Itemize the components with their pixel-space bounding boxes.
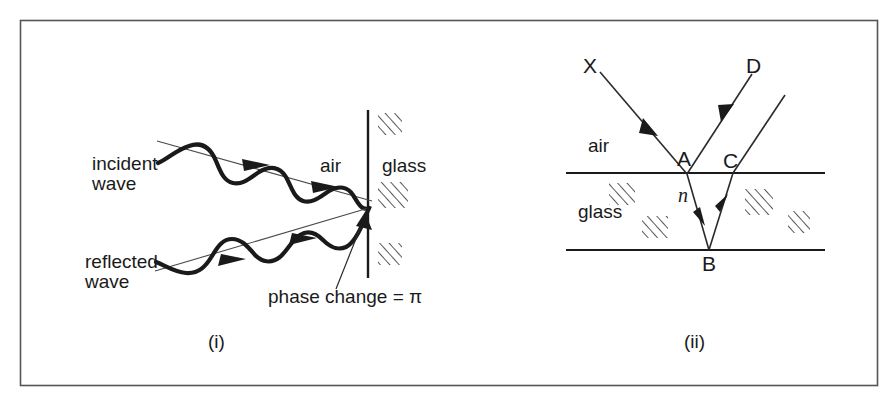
air-label-i: air <box>320 155 342 176</box>
panel-ii-caption: (ii) <box>684 331 705 352</box>
hatch-patch <box>745 189 773 215</box>
hatch-patch <box>378 113 402 135</box>
hatch-patch <box>788 211 810 233</box>
refractive-index-label-n: n <box>678 184 688 206</box>
glass-label-ii: glass <box>578 201 622 222</box>
incident-wave-label-line2: wave <box>91 173 136 194</box>
hatch-patch <box>378 182 408 208</box>
hatch-patch <box>378 243 402 265</box>
air-label-ii: air <box>588 135 610 156</box>
point-label-C: C <box>723 149 738 172</box>
phase-change-label: phase change = π <box>268 286 422 307</box>
panel-i-caption: (i) <box>208 331 225 352</box>
ray-label-D: D <box>746 54 761 77</box>
hatch-patch <box>642 216 668 238</box>
glass-label-i: glass <box>382 155 426 176</box>
incident-wave-label-line1: incident <box>92 153 158 174</box>
point-label-A: A <box>677 147 691 170</box>
reflected-wave-label-line2: wave <box>84 271 129 292</box>
physics-diagram-svg: incident wave reflected wave air glass p… <box>0 0 896 407</box>
ray-label-X: X <box>583 54 597 77</box>
reflected-wave-label-line1: reflected <box>85 251 158 272</box>
point-label-B: B <box>702 252 716 275</box>
figure-root: incident wave reflected wave air glass p… <box>0 0 896 407</box>
